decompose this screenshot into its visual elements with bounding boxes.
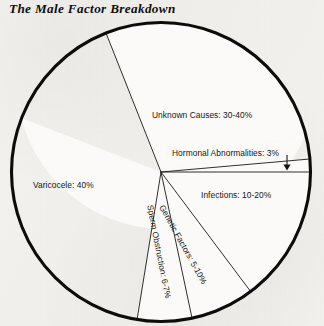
scanned-page: The Male Factor Breakdown — [0, 0, 324, 326]
slice-label-varicocele: Varicocele: 40% — [33, 180, 94, 190]
slice-label-unknown-causes: Unknown Causes: 30-40% — [152, 110, 252, 120]
slice-label-infections: Infections: 10-20% — [201, 190, 271, 200]
slice-label-hormonal-abnormalities: Hormonal Abnormalities: 3% — [172, 148, 279, 158]
